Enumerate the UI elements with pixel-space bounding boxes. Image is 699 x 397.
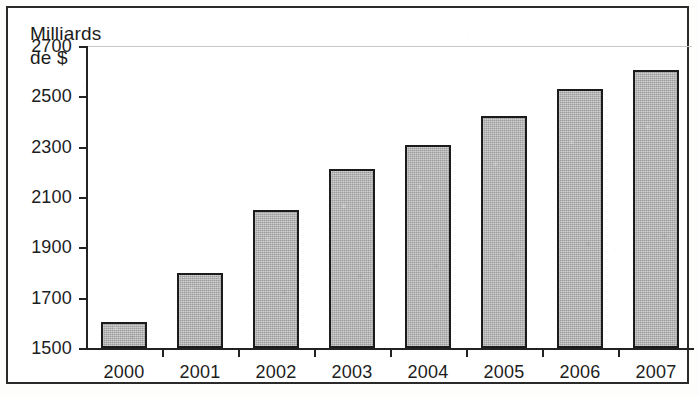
y-axis-tick-label: 2500	[10, 86, 72, 107]
x-axis-tick	[618, 348, 620, 357]
y-axis-tick	[79, 298, 86, 300]
x-axis-tick	[542, 348, 544, 357]
y-axis-tick	[79, 96, 86, 98]
y-axis-line	[86, 46, 88, 348]
bar	[101, 322, 147, 348]
x-axis-tick-label: 2005	[466, 362, 542, 383]
x-axis-tick	[466, 348, 468, 357]
chart-frame-border: Milliards de $ 2700250023002100190017001…	[6, 6, 689, 384]
x-axis-tick	[390, 348, 392, 357]
y-axis-tick	[79, 247, 86, 249]
x-axis-tick-label: 2003	[314, 362, 390, 383]
plot-area: 2700250023002100190017001500 20002001200…	[86, 46, 694, 348]
y-axis-tick-label: 1900	[10, 237, 72, 258]
x-axis-tick-label: 2006	[542, 362, 618, 383]
y-axis-tick-label: 1500	[10, 338, 72, 359]
x-axis-tick-label: 2004	[390, 362, 466, 383]
x-axis-tick	[238, 348, 240, 357]
x-axis-tick	[314, 348, 316, 357]
y-axis-tick-label: 1700	[10, 287, 72, 308]
y-axis-tick-label: 2700	[10, 36, 72, 57]
x-axis-tick-label: 2000	[86, 362, 162, 383]
x-axis-tick	[162, 348, 164, 357]
y-axis-tick	[79, 348, 86, 350]
bar	[633, 70, 679, 348]
bar	[557, 89, 603, 348]
y-axis-tick-label: 2300	[10, 136, 72, 157]
bar	[329, 169, 375, 348]
y-axis-tick	[79, 46, 86, 48]
y-axis-tick-label: 2100	[10, 187, 72, 208]
bar	[405, 145, 451, 348]
x-axis-tick-label: 2001	[162, 362, 238, 383]
y-axis-tick	[79, 147, 86, 149]
x-axis-tick-label: 2002	[238, 362, 314, 383]
bar	[177, 273, 223, 349]
scanned-page-background: Milliards de $ 2700250023002100190017001…	[0, 0, 699, 397]
x-axis-tick-label: 2007	[618, 362, 694, 383]
bar	[481, 116, 527, 348]
y-axis-tick	[79, 197, 86, 199]
bar	[253, 210, 299, 348]
top-gridline	[86, 46, 692, 47]
